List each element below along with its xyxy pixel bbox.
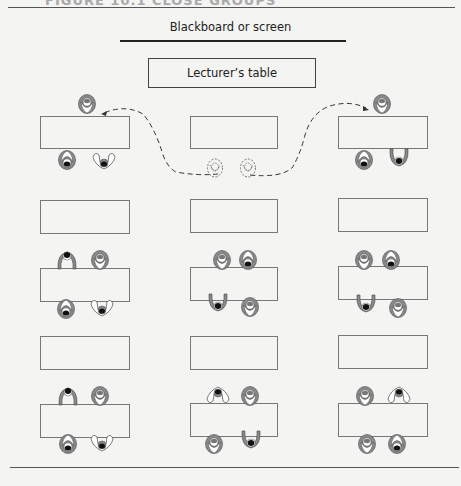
student-icon	[60, 435, 77, 454]
student-icon	[242, 387, 259, 406]
student-icon	[214, 251, 231, 270]
people-overlay	[0, 0, 461, 486]
student-icon	[207, 387, 229, 403]
student-icon	[357, 295, 375, 312]
student-icon	[356, 151, 373, 170]
moved-student-ghost-icon	[241, 159, 256, 177]
student-icon	[79, 95, 96, 114]
student-icon	[92, 251, 109, 270]
student-icon	[58, 300, 75, 319]
movement-path-dashed	[101, 103, 369, 175]
student-icon	[92, 387, 109, 406]
student-icon	[359, 435, 376, 454]
student-icon	[390, 299, 407, 318]
student-icon	[356, 251, 373, 270]
student-icon	[389, 435, 406, 454]
student-icon	[242, 431, 260, 448]
student-icon	[91, 300, 113, 316]
student-icon	[58, 252, 76, 269]
student-icon	[390, 149, 408, 166]
student-icon	[242, 298, 259, 317]
bottom-rule	[10, 467, 459, 468]
student-icon	[93, 153, 115, 169]
student-icon	[59, 388, 77, 405]
student-icon	[209, 294, 227, 311]
student-icon	[383, 251, 400, 270]
student-icon	[357, 387, 374, 406]
student-icon	[91, 435, 113, 451]
student-icon	[206, 435, 223, 454]
student-icon	[388, 387, 410, 403]
student-icon	[240, 251, 257, 270]
student-icon	[59, 151, 76, 170]
student-icon	[374, 95, 391, 114]
